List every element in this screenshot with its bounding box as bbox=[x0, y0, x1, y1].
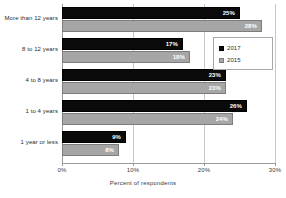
bar-2017-2[interactable]: 23% bbox=[62, 69, 226, 81]
bar-2015-4[interactable]: 8% bbox=[62, 144, 119, 156]
bar-group-4: 1 year or less 9% 8% bbox=[62, 131, 276, 157]
bar-2017-0[interactable]: 25% bbox=[62, 7, 240, 19]
x-axis-title: Percent of respondents bbox=[0, 180, 286, 186]
category-label-1: 8 to 12 years bbox=[22, 46, 58, 52]
legend-item-2015[interactable]: 2015 bbox=[219, 54, 272, 66]
category-label-0: More than 12 years bbox=[5, 15, 59, 21]
chart-legend: 2017 2015 bbox=[213, 37, 273, 70]
x-tick-label-0: 0% bbox=[58, 167, 67, 173]
category-label-2: 4 to 8 years bbox=[25, 77, 58, 83]
bar-value-2017-2: 23% bbox=[209, 72, 221, 78]
bar-chart: 0% 10% 20% 30% More than 12 years 25% 28… bbox=[0, 0, 286, 198]
bar-value-2017-4: 9% bbox=[112, 134, 121, 140]
category-label-4: 1 year or less bbox=[21, 139, 58, 145]
x-tick-mark-0 bbox=[62, 163, 63, 166]
legend-item-2017[interactable]: 2017 bbox=[219, 42, 272, 54]
bar-value-2017-3: 26% bbox=[230, 103, 242, 109]
legend-label-2015: 2015 bbox=[227, 57, 241, 63]
bar-value-2015-0: 28% bbox=[245, 23, 257, 29]
bar-value-2015-4: 8% bbox=[105, 147, 114, 153]
bar-2015-3[interactable]: 24% bbox=[62, 113, 233, 125]
bar-2015-2[interactable]: 23% bbox=[62, 82, 226, 94]
bar-value-2017-0: 25% bbox=[223, 10, 235, 16]
bar-group-3: 1 to 4 years 26% 24% bbox=[62, 100, 276, 126]
x-tick-label-10: 10% bbox=[127, 167, 139, 173]
bar-value-2015-2: 23% bbox=[209, 85, 221, 91]
bar-value-2015-3: 24% bbox=[216, 116, 228, 122]
x-tick-label-30: 30% bbox=[269, 167, 281, 173]
legend-swatch-icon-2017 bbox=[219, 46, 224, 51]
bar-value-2015-1: 18% bbox=[173, 54, 185, 60]
x-tick-mark-30 bbox=[275, 163, 276, 166]
x-tick-mark-10 bbox=[133, 163, 134, 166]
bar-2017-4[interactable]: 9% bbox=[62, 131, 126, 143]
x-tick-label-20: 20% bbox=[198, 167, 210, 173]
bar-group-2: 4 to 8 years 23% 23% bbox=[62, 69, 276, 95]
bar-2017-1[interactable]: 17% bbox=[62, 38, 183, 50]
bars-layer: More than 12 years 25% 28% 8 to 12 years… bbox=[62, 4, 276, 163]
bar-2015-0[interactable]: 28% bbox=[62, 20, 262, 32]
bar-value-2017-1: 17% bbox=[166, 41, 178, 47]
bar-2015-1[interactable]: 18% bbox=[62, 51, 190, 63]
bar-group-0: More than 12 years 25% 28% bbox=[62, 7, 276, 33]
bar-2017-3[interactable]: 26% bbox=[62, 100, 247, 112]
legend-label-2017: 2017 bbox=[227, 45, 241, 51]
x-axis-line bbox=[62, 163, 276, 164]
x-tick-mark-20 bbox=[204, 163, 205, 166]
category-label-3: 1 to 4 years bbox=[25, 108, 58, 114]
legend-swatch-icon-2015 bbox=[219, 58, 224, 63]
